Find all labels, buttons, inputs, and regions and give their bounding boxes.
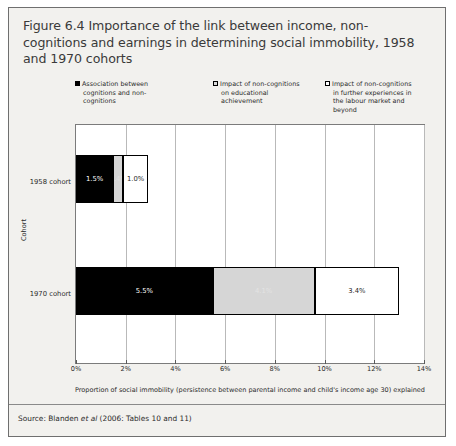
source-italic: et al [81,414,97,423]
x-tick-label: 4% [170,365,180,373]
x-tick-label: 14% [417,365,432,373]
source-prefix: Source: Blanden [18,414,81,423]
bar-segment: 1.0% [123,155,148,203]
x-tick-mark [76,360,77,364]
legend-item-labour-market: Impact of non-cognitions in further expe… [325,80,437,114]
x-axis-ticks: 0%2%4%6%8%10%12%14% [75,365,425,379]
source-note: Source: Blanden et al (2006: Tables 10 a… [18,414,192,423]
figure-title: Figure 6.4 Importance of the link betwee… [23,18,431,68]
x-tick-label: 8% [270,365,280,373]
source-divider [9,404,445,405]
x-tick-label: 6% [220,365,230,373]
legend-label-line3: cognitions [83,97,185,106]
bar-value-label: 1.0% [127,175,144,183]
y-axis-group: Cohort 1958 cohort 1970 cohort [9,8,71,438]
legend-label-line3: achievement [221,97,318,106]
gridline [225,125,226,363]
x-tick-mark [275,360,276,364]
x-tick-label: 0% [71,365,81,373]
x-tick-mark [126,360,127,364]
chart-legend: Association between cognitions and non- … [75,80,435,124]
x-tick-mark [374,360,375,364]
legend-item-association-cognitions: Association between cognitions and non- … [75,80,185,106]
bar-segment: 3.4% [315,267,400,315]
y-tick-label-1970-cohort: 1970 cohort [13,290,71,298]
gridline [325,125,326,363]
legend-label-line1: Impact of non-cognitions [220,80,300,88]
x-tick-label: 2% [120,365,130,373]
x-tick-mark [225,360,226,364]
bar-row-1958-cohort: 1.5%0.4%1.0% [76,155,148,203]
y-tick-label-1958-cohort: 1958 cohort [13,178,71,186]
bar-row-1970-cohort: 5.5%4.1%3.4% [76,267,399,315]
x-tick-mark [175,360,176,364]
legend-label-line2: cognitions and non- [83,89,185,98]
x-axis-title: Proportion of social immobility (persist… [59,386,441,394]
bar-value-label: 3.4% [348,287,365,295]
bar-segment: 5.5% [76,267,213,315]
legend-swatch-grey-icon [213,81,218,86]
gridline [424,125,425,363]
legend-swatch-white-icon [325,81,330,86]
legend-label-line1: Association between [82,80,148,88]
bar-value-label: 0.4% [113,175,123,183]
bar-value-label: 5.5% [136,287,153,295]
x-tick-label: 12% [367,365,382,373]
legend-label-line4: beyond [333,106,437,115]
bar-value-label: 4.1% [255,287,272,295]
legend-label-line2: on educational [221,89,318,98]
figure-container: Figure 6.4 Importance of the link betwee… [8,7,446,437]
x-tick-mark [424,360,425,364]
y-axis-title: Cohort [20,200,28,260]
gridline [275,125,276,363]
bar-value-label: 1.5% [86,175,103,183]
x-tick-mark [325,360,326,364]
gridline [175,125,176,363]
plot-area: 1.5%0.4%1.0% 5.5%4.1%3.4% [75,124,425,364]
legend-label-line2: in further experiences in [333,89,437,98]
bar-segment: 4.1% [213,267,315,315]
legend-label-line1: Impact of non-cognitions [332,80,412,88]
bar-segment: 1.5% [76,155,113,203]
bar-segment: 0.4% [113,155,123,203]
x-tick-label: 10% [317,365,332,373]
legend-label-line3: the labour market and [333,97,437,106]
legend-swatch-black-icon [75,81,80,86]
legend-item-educational-achievement: Impact of non-cognitions on educational … [213,80,318,106]
source-suffix: (2006: Tables 10 and 11) [97,414,192,423]
gridline [374,125,375,363]
